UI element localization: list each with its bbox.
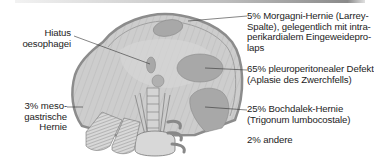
aortic-opening: [152, 75, 164, 87]
label-other: 2% andere: [247, 135, 293, 146]
label-pleuroperitoneal-defect: 65% pleuroperitonealer Defekt (Aplasie d…: [247, 64, 374, 85]
hiatus-opening: [147, 57, 156, 73]
label-morgagni-hernia: 5% Morgagni-Hernie (Larrey- Spalte), gel…: [247, 11, 371, 53]
label-bochdalek-hernia: 25% Bochdalek-Hernie (Trigonum lumbocost…: [247, 104, 350, 125]
label-hiatus-oesophagei: Hiatus oesophagei: [8, 28, 71, 49]
pleuroperitoneal-defect: [177, 54, 223, 82]
label-mesogastric-hernia: 3% meso- gastrische Hernie: [5, 101, 67, 133]
